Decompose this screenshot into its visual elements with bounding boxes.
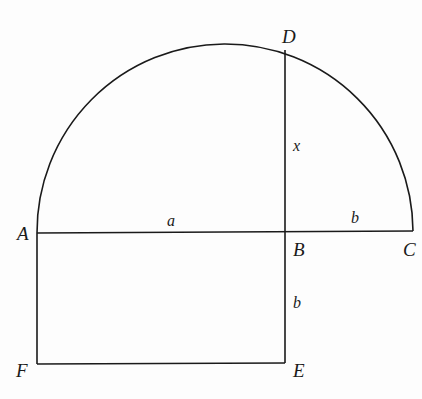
label-x: x [292, 137, 300, 154]
label-e: E [292, 360, 305, 381]
label-b: B [293, 239, 305, 260]
label-a: A [15, 223, 29, 244]
label-d: D [281, 26, 296, 47]
label-a-length: a [167, 212, 175, 229]
segment-ef [37, 363, 285, 364]
figure-canvas: D A B C F E x a b b [0, 0, 422, 399]
geometry-figure: D A B C F E x a b b [0, 0, 422, 399]
label-b-length-be: b [293, 294, 301, 311]
label-c: C [403, 239, 416, 260]
semicircle-arc [37, 44, 413, 233]
label-b-length-bc: b [351, 209, 359, 226]
label-f: F [15, 360, 28, 381]
segment-ac [37, 231, 413, 233]
